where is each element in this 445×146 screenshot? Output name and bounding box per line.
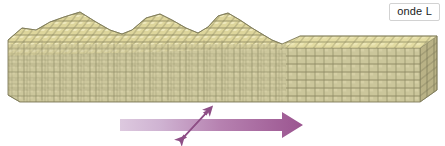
- wave-type-label: onde L: [389, 3, 440, 21]
- compressed-cube-texture: [8, 44, 286, 102]
- block-top-face-flat: [285, 36, 437, 48]
- figure-canvas: [0, 0, 445, 146]
- wave-propagation-arrow: [120, 112, 303, 138]
- ridge-2: [132, 14, 198, 47]
- wave-block-illustration: [0, 0, 445, 146]
- rock-block: [8, 12, 437, 102]
